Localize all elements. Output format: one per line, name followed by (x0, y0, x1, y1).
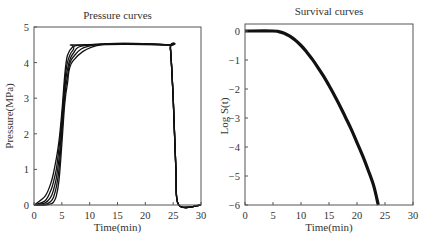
survival-chart-title: Survival curves (295, 5, 364, 17)
y-tick-label: 0 (235, 26, 240, 37)
x-tick-label: 5 (270, 210, 275, 221)
x-tick-label: 30 (408, 210, 419, 221)
series-line (245, 31, 378, 205)
y-tick-label: 4 (24, 58, 30, 69)
chart-figure: Pressure curves 051015202530 012345 Time… (0, 0, 427, 244)
y-tick-label: 5 (24, 22, 29, 33)
x-tick-label: 30 (196, 210, 207, 221)
pressure-y-ticks: 012345 (24, 22, 37, 211)
y-tick-label: −3 (229, 113, 240, 124)
survival-plot-frame (245, 24, 413, 205)
x-tick-label: 5 (59, 210, 64, 221)
x-tick-label: 20 (352, 210, 363, 221)
x-tick-label: 0 (31, 210, 36, 221)
x-tick-label: 20 (140, 210, 151, 221)
survival-curves (245, 31, 378, 205)
pressure-x-axis-label: Time(min) (94, 221, 142, 234)
y-tick-label: 2 (24, 129, 29, 140)
pressure-curves (34, 43, 201, 207)
y-tick-label: −4 (229, 142, 241, 153)
y-tick-label: 1 (24, 164, 29, 175)
x-tick-label: 10 (84, 210, 95, 221)
x-tick-label: 25 (168, 210, 179, 221)
pressure-chart: Pressure curves 051015202530 012345 Time… (3, 9, 206, 234)
y-tick-label: −2 (229, 84, 240, 95)
y-tick-label: −1 (229, 55, 240, 66)
y-tick-label: 0 (24, 200, 29, 211)
x-tick-label: 10 (296, 210, 307, 221)
y-tick-label: −6 (229, 200, 240, 211)
series-line (34, 43, 201, 207)
x-tick-label: 15 (112, 210, 123, 221)
x-tick-label: 0 (242, 210, 247, 221)
survival-y-axis-label: Log S(t) (218, 97, 231, 134)
y-tick-label: 3 (24, 93, 29, 104)
pressure-chart-title: Pressure curves (83, 9, 152, 21)
survival-chart: Survival curves 051015202530 0−1−2−3−4−5… (218, 5, 418, 234)
pressure-y-axis-label: Pressure(MPa) (3, 83, 16, 149)
x-tick-label: 25 (380, 210, 391, 221)
x-tick-label: 15 (324, 210, 335, 221)
y-tick-label: −5 (229, 171, 240, 182)
survival-x-axis-label: Time(min) (305, 221, 353, 234)
